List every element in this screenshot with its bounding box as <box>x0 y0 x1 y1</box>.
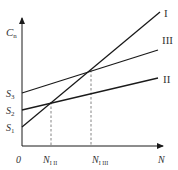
line-ii <box>22 78 158 110</box>
y-tick-s2: S2 <box>6 105 15 118</box>
x-tick-n-i-ii: NI II <box>42 154 57 166</box>
y-tick-s3: S3 <box>6 88 15 101</box>
y-tick-s1: S1 <box>6 122 15 135</box>
origin-label: 0 <box>16 154 21 165</box>
line-iii-label: III <box>162 34 173 46</box>
line-i <box>22 12 160 127</box>
line-iii <box>22 50 158 93</box>
x-tick-n-i-iii: NI III <box>91 154 108 166</box>
y-axis-label: Cn <box>6 26 17 40</box>
line-i-label: I <box>164 7 168 19</box>
cost-volume-diagram: I III II Cn S3 S2 S1 0 NI II NI III N <box>0 0 178 170</box>
x-axis-label: N <box>157 154 166 165</box>
line-ii-label: II <box>163 73 171 85</box>
